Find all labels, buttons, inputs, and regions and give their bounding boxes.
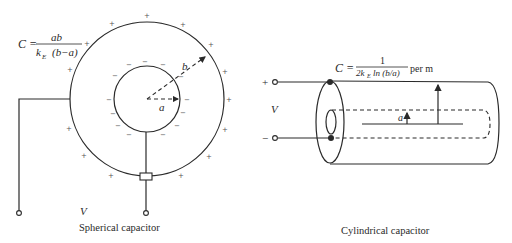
svg-text:−: −: [174, 122, 180, 130]
svg-text:per m: per m: [410, 63, 433, 74]
cylindrical-capacitor: a + − V C = 1 2k E ln (b/a) per m Cylind…: [262, 55, 499, 236]
radius-b-arrow: [147, 57, 205, 99]
svg-text:+: +: [67, 66, 73, 74]
svg-text:−: −: [180, 109, 186, 117]
svg-text:−: −: [126, 131, 132, 139]
plus-terminal: [273, 80, 278, 85]
svg-text:E: E: [41, 53, 47, 61]
svg-text:+: +: [226, 96, 232, 104]
cylindrical-caption: Cylindrical capacitor: [341, 225, 430, 236]
spherical-voltage-label: V: [80, 205, 88, 217]
svg-text:+: +: [178, 172, 184, 180]
svg-text:−: −: [110, 110, 116, 118]
svg-text:−: −: [160, 61, 166, 69]
minus-junction: [328, 135, 334, 141]
plus-junction: [327, 79, 333, 85]
radius-a-label: a: [159, 101, 165, 113]
radius-b-label: b: [182, 60, 188, 72]
svg-text:+: +: [108, 172, 114, 180]
cyl-voltage-label: V: [271, 103, 279, 115]
minus-terminal: [273, 136, 278, 141]
spherical-capacitor: b a + + + + + + + + + + + + + + −: [17, 12, 232, 233]
svg-text:1: 1: [380, 55, 385, 66]
svg-text:+: +: [180, 21, 186, 29]
cylindrical-formula: C = 1 2k E ln (b/a) per m: [335, 55, 433, 79]
svg-text:+: +: [81, 152, 87, 160]
outer-charges: + + + + + + + + + + + + + +: [66, 12, 232, 180]
svg-text:+: +: [144, 12, 150, 20]
svg-text:−: −: [184, 96, 190, 104]
svg-text:E: E: [366, 73, 371, 79]
svg-text:C =: C =: [18, 37, 37, 51]
svg-text:−: −: [115, 122, 121, 130]
terminal-right: [144, 211, 149, 216]
svg-text:+: +: [109, 20, 115, 28]
svg-text:+: +: [66, 125, 72, 133]
svg-text:(b−a): (b−a): [52, 46, 78, 59]
svg-text:+: +: [222, 68, 228, 76]
svg-text:+: +: [206, 153, 212, 161]
svg-text:C =: C =: [335, 61, 354, 75]
spherical-caption: Spherical capacitor: [79, 222, 160, 233]
svg-text:ln (b/a): ln (b/a): [373, 68, 400, 78]
terminal-left: [17, 211, 22, 216]
svg-text:ab: ab: [51, 31, 63, 43]
svg-text:−: −: [142, 58, 148, 66]
svg-text:2k: 2k: [356, 68, 366, 78]
svg-text:+: +: [208, 41, 214, 49]
svg-text:−: −: [112, 72, 118, 80]
outer-cylinder-end: [316, 81, 344, 163]
svg-text:−: −: [126, 61, 132, 69]
outer-wire: [19, 99, 70, 211]
svg-text:+: +: [222, 126, 228, 134]
outer-cylinder: [330, 81, 499, 164]
svg-text:−: −: [178, 73, 184, 81]
plus-sign: +: [262, 76, 268, 88]
spherical-formula: C = ab k E (b−a): [18, 31, 82, 61]
capacitor-diagram: b a + + + + + + + + + + + + + + −: [0, 0, 512, 243]
svg-text:−: −: [106, 96, 112, 104]
inner-cylinder-end: [326, 110, 336, 134]
svg-text:+: +: [84, 40, 90, 48]
cyl-radius-a-label: a: [398, 112, 403, 123]
minus-sign: −: [262, 132, 268, 144]
svg-text:−: −: [160, 131, 166, 139]
insulator-bushing: [140, 173, 152, 180]
